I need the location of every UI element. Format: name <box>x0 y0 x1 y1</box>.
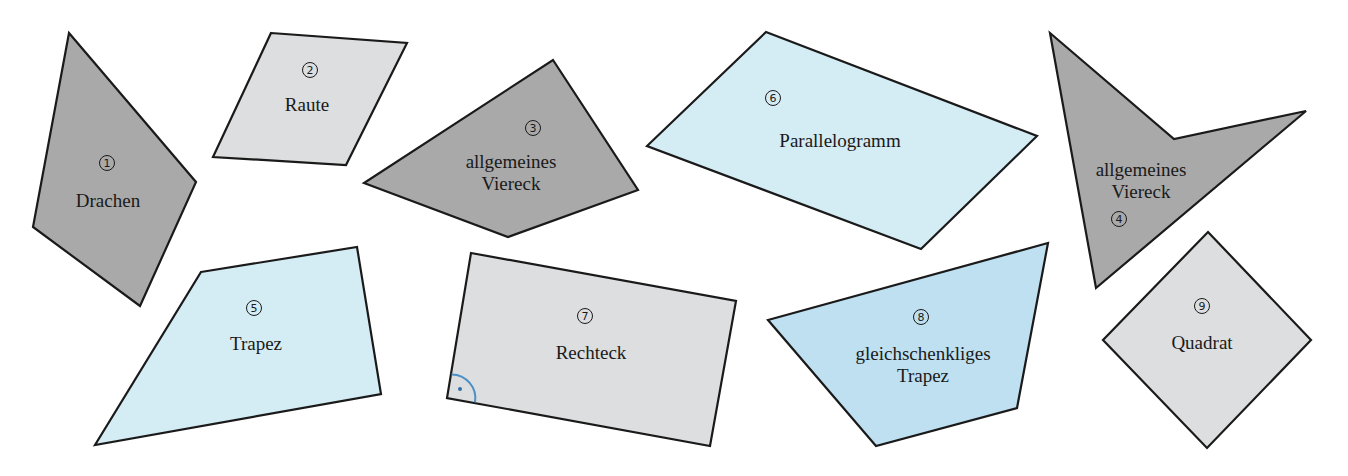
label-line: allgemeines <box>466 151 557 173</box>
shape-label-raute: Raute <box>285 94 329 116</box>
label-line: Viereck <box>466 173 557 195</box>
shape-number-badge-5: 5 <box>246 300 262 316</box>
quadrilaterals-diagram <box>0 0 1348 476</box>
shape-number-badge-9: 9 <box>1194 298 1210 314</box>
shape-label-allgemeines-viereck-3: allgemeines Viereck <box>466 151 557 195</box>
shape-number-badge-1: 1 <box>99 155 115 171</box>
shape-number-badge-3: 3 <box>525 120 541 136</box>
shape-label-rechteck: Rechteck <box>556 342 627 364</box>
shape-label-gleichschenkliges-trapez: gleichschenkliges Trapez <box>855 343 990 387</box>
shape-number-badge-6: 6 <box>765 90 781 106</box>
shape-allgemeines-viereck-3 <box>364 60 638 237</box>
label-line: allgemeines <box>1096 159 1187 181</box>
label-line: Trapez <box>855 365 990 387</box>
label-line: gleichschenkliges <box>855 343 990 365</box>
shape-label-drachen: Drachen <box>76 190 140 212</box>
shape-number-badge-2: 2 <box>302 62 318 78</box>
shape-number-badge-7: 7 <box>577 308 593 324</box>
label-line: Viereck <box>1096 181 1187 203</box>
right-angle-dot-icon <box>458 387 462 391</box>
shape-number-badge-8: 8 <box>913 309 929 325</box>
shape-label-parallelogramm: Parallelogramm <box>779 130 900 152</box>
shape-number-badge-4: 4 <box>1111 211 1127 227</box>
shape-label-trapez: Trapez <box>230 333 282 355</box>
shape-label-allgemeines-viereck-4: allgemeines Viereck <box>1096 159 1187 203</box>
shape-drachen <box>33 33 196 306</box>
shape-label-quadrat: Quadrat <box>1171 332 1232 354</box>
